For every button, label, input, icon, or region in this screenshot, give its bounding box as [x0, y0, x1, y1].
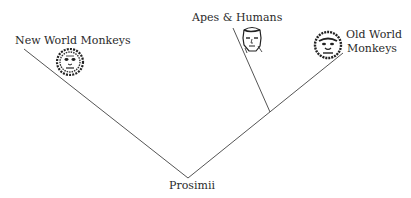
- branch-new-world-monkeys: [24, 49, 188, 178]
- leaf-label-old-world-line1: Old World: [346, 28, 398, 42]
- leaf-label-apes-humans: Apes & Humans: [192, 11, 282, 25]
- leaf-label-old-world-monkeys: Old World Monkeys: [346, 28, 398, 56]
- root-label-prosimii: Prosimii: [169, 179, 215, 193]
- leaf-label-new-world-monkeys: New World Monkeys: [15, 34, 131, 48]
- human-face-icon: [243, 28, 262, 54]
- new-world-monkey-face-icon: [57, 49, 83, 75]
- leaf-label-old-world-line2: Monkeys: [346, 42, 398, 56]
- branch-old-world-monkeys: [188, 53, 343, 178]
- primate-phylogeny-diagram: New World Monkeys Apes & Humans Old Worl…: [0, 0, 411, 198]
- old-world-monkey-face-icon: [315, 32, 341, 58]
